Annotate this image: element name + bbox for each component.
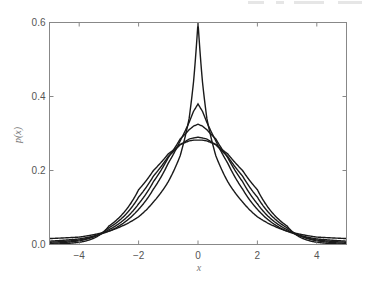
x-tick-label: −2 — [133, 250, 145, 261]
density-curve-curve-5 — [50, 140, 347, 244]
x-axis-label: x — [196, 262, 202, 273]
y-tick-label: 0.0 — [32, 239, 46, 250]
density-curves — [50, 23, 347, 245]
density-curve-curve-4 — [50, 137, 347, 243]
x-tick-label: −4 — [73, 250, 85, 261]
plot-frame — [50, 23, 347, 245]
x-tick-label: 0 — [195, 250, 201, 261]
density-curve-curve-3 — [50, 124, 347, 242]
y-tick-label: 0.4 — [32, 91, 46, 102]
x-tick-label: 2 — [255, 250, 261, 261]
y-tick-label: 0.6 — [32, 17, 46, 28]
density-chart: −4−20240.00.20.40.6 x p(x) — [0, 0, 365, 283]
y-tick-label: 0.2 — [32, 165, 46, 176]
y-axis-label: p(x) — [12, 126, 24, 144]
density-curve-curve-1 — [50, 23, 347, 239]
x-tick-label: 4 — [314, 250, 320, 261]
